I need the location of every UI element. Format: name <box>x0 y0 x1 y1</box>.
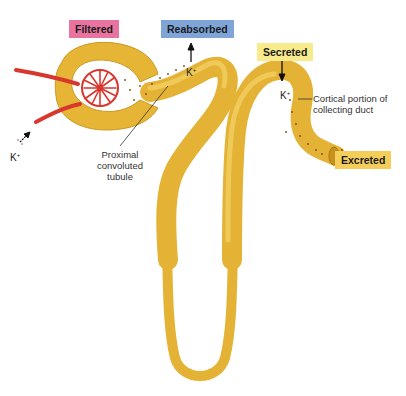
ion-charge: + <box>287 90 291 96</box>
proximal-tubule <box>150 67 228 260</box>
nephron-diagram: Filtered Reabsorbed Secreted Excreted Pr… <box>0 0 406 396</box>
potassium-ion-filtered: K+ <box>10 150 20 163</box>
loop-of-henle <box>167 250 233 376</box>
ion-charge: + <box>17 152 21 158</box>
ion-symbol: K <box>186 67 193 78</box>
secreted-tag: Secreted <box>257 43 313 61</box>
collecting-duct-label: Cortical portion of collecting duct <box>313 93 393 115</box>
ion-charge: + <box>193 67 197 73</box>
potassium-ion-secreted: K+ <box>280 88 290 101</box>
filtered-tag: Filtered <box>69 20 119 38</box>
potassium-ion-reabsorbed: K+ <box>186 65 196 78</box>
proximal-tubule-label: Proximal convoluted tubule <box>92 149 148 182</box>
excreted-tag: Excreted <box>335 151 391 169</box>
ion-symbol: K <box>10 152 17 163</box>
ion-symbol: K <box>280 90 287 101</box>
nephron-illustration <box>0 0 406 396</box>
reabsorbed-tag: Reabsorbed <box>161 20 234 38</box>
